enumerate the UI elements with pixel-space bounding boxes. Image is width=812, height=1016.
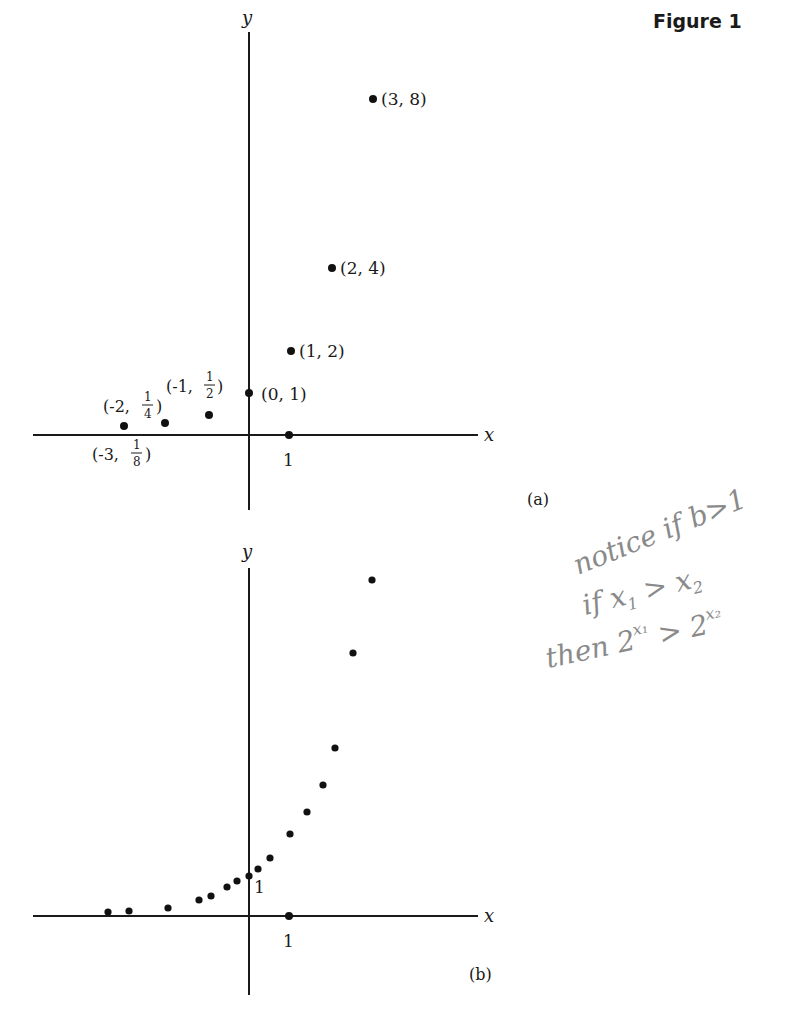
data-point: [245, 872, 252, 879]
point-neg3-eighth: [120, 422, 128, 430]
point-2-4: [328, 264, 336, 272]
point-0-1: [245, 389, 253, 397]
handwritten-note: notice if b>1 if x1 > x2 then 2x₁ > 2x₂: [542, 482, 751, 675]
point-1-2: [287, 347, 295, 355]
point-3-8: [369, 95, 377, 103]
point-neg2-quarter-label: (-2, 1 4 ): [103, 390, 162, 421]
svg-text:1: 1: [144, 390, 152, 404]
panel-a-label: (a): [527, 490, 549, 509]
panel-a-x-tick-dot: [285, 431, 293, 439]
panel-b: x y 1 1 (b): [33, 541, 494, 995]
data-point: [349, 649, 356, 656]
panel-b-y-tick-label: 1: [254, 877, 265, 897]
data-point: [303, 808, 310, 815]
point-3-8-label: (3, 8): [381, 89, 427, 109]
data-point: [254, 865, 261, 872]
data-point: [207, 892, 214, 899]
point-neg3-eighth-label: (-3, 1 8 ): [92, 438, 151, 469]
panel-a-x-tick-label: 1: [283, 450, 294, 470]
data-point: [223, 883, 230, 890]
panel-b-y-axis-label: y: [241, 541, 253, 562]
data-point: [331, 744, 338, 751]
data-point: [233, 877, 240, 884]
panel-a: x y 1 (3, 8) (2, 4) (1, 2) (0, 1) (-1, 1…: [33, 7, 549, 510]
panel-a-y-axis-label: y: [241, 7, 253, 28]
data-point: [368, 576, 375, 583]
svg-text:): ): [217, 377, 223, 396]
data-point: [104, 908, 111, 915]
svg-text:4: 4: [144, 407, 152, 421]
svg-text:): ): [156, 397, 162, 416]
svg-text:(-1,: (-1,: [166, 377, 193, 396]
data-point: [195, 896, 202, 903]
point-neg2-quarter: [161, 419, 169, 427]
note-line-1: notice if b>1: [568, 482, 751, 581]
point-2-4-label: (2, 4): [340, 258, 386, 278]
panel-b-x-tick-dot: [285, 912, 293, 920]
svg-text:(-3,: (-3,: [92, 445, 119, 464]
svg-text:(-2,: (-2,: [103, 397, 130, 416]
point-neg1-half-label: (-1, 1 2 ): [166, 370, 223, 401]
point-0-1-label: (0, 1): [261, 384, 307, 404]
data-point: [319, 781, 326, 788]
svg-text:1: 1: [206, 370, 214, 384]
svg-text:8: 8: [133, 455, 141, 469]
panel-b-label: (b): [469, 965, 492, 984]
panel-b-x-tick-label: 1: [283, 931, 294, 951]
svg-text:2: 2: [206, 387, 214, 401]
data-point: [164, 904, 171, 911]
figure-canvas: x y 1 (3, 8) (2, 4) (1, 2) (0, 1) (-1, 1…: [0, 0, 812, 1016]
panel-a-x-axis-label: x: [484, 424, 494, 445]
data-point: [266, 854, 273, 861]
panel-b-x-axis-label: x: [484, 905, 494, 926]
point-neg1-half: [205, 411, 213, 419]
point-1-2-label: (1, 2): [299, 341, 345, 361]
data-point: [125, 907, 132, 914]
panel-b-points: [104, 576, 375, 915]
svg-text:1: 1: [133, 438, 141, 452]
data-point: [286, 830, 293, 837]
svg-text:): ): [145, 445, 151, 464]
